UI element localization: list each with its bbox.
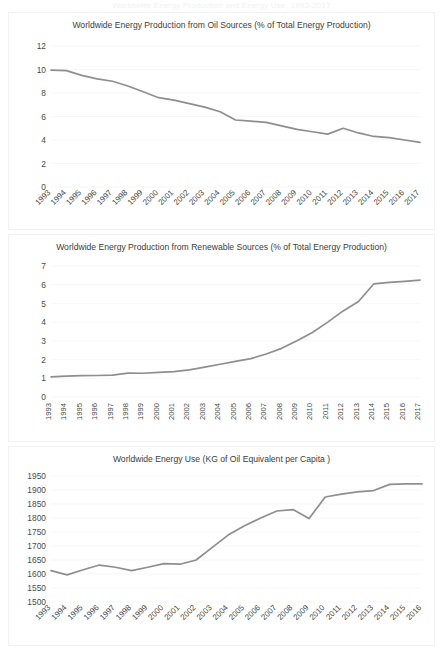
x-axis-tick-label: 1999	[130, 602, 149, 621]
y-axis-tick-label: 4	[41, 317, 46, 327]
y-axis-tick-label: 2	[41, 158, 46, 168]
y-axis-tick-label: 1	[41, 373, 46, 383]
x-axis-tick-label: 2012	[340, 602, 359, 621]
y-axis-tick-label: 6	[41, 111, 46, 121]
x-axis-tick-label: 1998	[114, 602, 133, 621]
chart-oil-production: Worldwide Energy Production from Oil Sou…	[8, 12, 435, 230]
x-axis-tick-label: 2001	[167, 403, 176, 420]
x-axis-tick-label: 2009	[290, 403, 299, 420]
x-axis-tick-label: 2010	[295, 187, 314, 206]
data-series-line	[51, 280, 420, 377]
chart-renewable-production: Worldwide Energy Production from Renewab…	[8, 234, 435, 442]
x-axis-tick-label: 2012	[336, 403, 345, 420]
y-axis-tick-label: 1800	[27, 513, 46, 523]
y-axis-tick-label: 0	[41, 392, 46, 402]
x-axis-tick-label: 2004	[213, 403, 222, 420]
x-axis-tick-label: 1994	[50, 602, 69, 621]
y-axis-tick-label: 2	[41, 354, 46, 364]
x-axis-tick-label: 2009	[292, 602, 311, 621]
y-axis-tick-label: 10	[37, 64, 47, 74]
x-axis-tick-label: 2014	[356, 187, 375, 206]
x-axis-tick-label: 2002	[172, 187, 191, 206]
x-axis-tick-label: 2011	[321, 403, 330, 419]
y-axis-tick-label: 5	[41, 298, 46, 308]
x-axis-tick-label: 2011	[311, 187, 330, 206]
chart-energy-use-title: Worldwide Energy Use (KG of Oil Equivale…	[9, 447, 434, 466]
x-axis-tick-label: 2011	[324, 602, 343, 621]
x-axis-tick-label: 2005	[218, 187, 237, 206]
y-axis-tick-label: 4	[41, 135, 46, 145]
x-axis-tick-label: 1994	[49, 187, 68, 206]
x-axis-tick-label: 2004	[211, 602, 230, 621]
x-axis-tick-label: 1997	[98, 602, 117, 621]
y-axis-tick-label: 1850	[27, 499, 46, 509]
y-axis-tick-label: 1750	[27, 527, 46, 537]
x-axis-tick-label: 1996	[82, 602, 101, 621]
x-axis-tick-label: 2017	[413, 403, 422, 420]
x-axis-tick-label: 1997	[95, 187, 114, 206]
x-axis-tick-label: 1995	[64, 187, 83, 206]
x-axis-tick-label: 2003	[187, 187, 206, 206]
x-axis-tick-label: 2016	[387, 187, 406, 206]
x-axis-tick-label: 2015	[388, 602, 407, 621]
x-axis-tick-label: 1999	[136, 403, 145, 420]
y-axis-tick-label: 1600	[27, 569, 46, 579]
x-axis-tick-label: 2004	[203, 187, 222, 206]
x-axis-tick-label: 2009	[279, 187, 298, 206]
x-axis-tick-label: 1993	[44, 403, 53, 420]
x-axis-tick-label: 2003	[195, 602, 214, 621]
x-axis-tick-label: 2000	[152, 403, 161, 420]
chart-renewable-plot: 0123456719931994199519961997199819992000…	[9, 254, 434, 439]
x-axis-tick-label: 2007	[249, 187, 268, 206]
chart-oil-title: Worldwide Energy Production from Oil Sou…	[9, 13, 434, 32]
x-axis-tick-label: 2017	[402, 187, 421, 206]
y-axis-tick-label: 8	[41, 88, 46, 98]
x-axis-tick-label: 2006	[243, 602, 262, 621]
x-axis-tick-label: 2015	[382, 403, 391, 420]
x-axis-tick-label: 1996	[80, 187, 99, 206]
x-axis-tick-label: 2016	[404, 602, 423, 621]
x-axis-tick-label: 2008	[264, 187, 283, 206]
x-axis-tick-label: 1999	[126, 187, 145, 206]
x-axis-tick-label: 2010	[308, 602, 327, 621]
x-axis-tick-label: 1994	[59, 403, 68, 420]
y-axis-tick-label: 1700	[27, 541, 46, 551]
x-axis-tick-label: 2005	[227, 602, 246, 621]
x-axis-tick-label: 2016	[398, 403, 407, 420]
x-axis-tick-label: 1998	[121, 403, 130, 420]
x-axis-tick-label: 2014	[372, 602, 391, 621]
x-axis-tick-label: 2007	[259, 403, 268, 420]
chart-energy-use-plot: 1500155016001650170017501800185019001950…	[9, 466, 434, 644]
x-axis-tick-label: 2013	[352, 403, 361, 420]
x-axis-tick-label: 2002	[182, 403, 191, 420]
chart-oil-plot: 0246810121993199419951996199719981999200…	[9, 32, 434, 227]
x-axis-tick-label: 2001	[163, 602, 182, 621]
x-axis-tick-label: 2000	[146, 602, 165, 621]
x-axis-tick-label: 2005	[229, 403, 238, 420]
x-axis-tick-label: 2007	[259, 602, 278, 621]
x-axis-tick-label: 1993	[33, 187, 52, 206]
x-axis-tick-label: 2006	[244, 403, 253, 420]
data-series-line	[51, 70, 420, 142]
x-axis-tick-label: 2014	[367, 403, 376, 420]
x-axis-tick-label: 2010	[305, 403, 314, 420]
x-axis-tick-label: 1998	[110, 187, 129, 206]
x-axis-tick-label: 2001	[156, 187, 175, 206]
y-axis-tick-label: 6	[41, 279, 46, 289]
y-axis-tick-label: 1550	[27, 583, 46, 593]
x-axis-tick-label: 2015	[372, 187, 391, 206]
x-axis-tick-label: 2002	[179, 602, 198, 621]
chart-renewable-title: Worldwide Energy Production from Renewab…	[9, 235, 434, 254]
x-axis-tick-label: 1997	[106, 403, 115, 420]
x-axis-tick-label: 2008	[275, 602, 294, 621]
x-axis-tick-label: 2006	[233, 187, 252, 206]
x-axis-tick-label: 2013	[356, 602, 375, 621]
y-axis-tick-label: 7	[41, 261, 46, 271]
y-axis-tick-label: 1650	[27, 555, 46, 565]
y-axis-tick-label: 3	[41, 335, 46, 345]
x-axis-tick-label: 1995	[66, 602, 85, 621]
x-axis-tick-label: 2000	[141, 187, 160, 206]
y-axis-tick-label: 1900	[27, 485, 46, 495]
cropped-header-text: Worldwide Energy Production and Energy U…	[0, 0, 443, 11]
x-axis-tick-label: 2013	[341, 187, 360, 206]
